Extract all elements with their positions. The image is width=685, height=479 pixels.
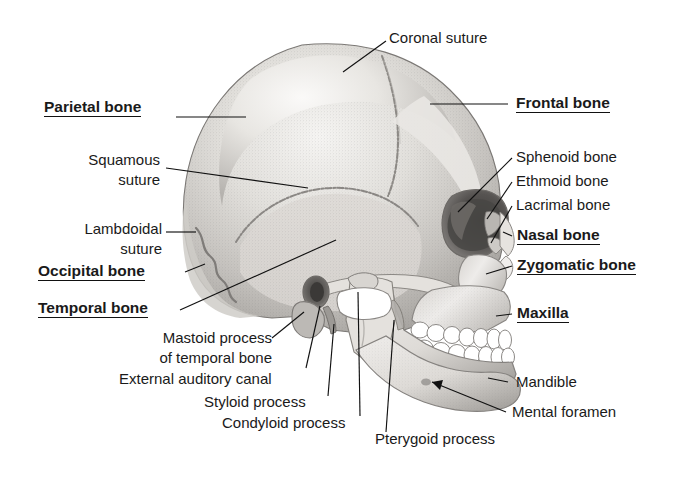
label-temporal-bone: Temporal bone [38,299,148,318]
label-mandible: Mandible [516,373,577,390]
label-squamous-suture: Squamous suture [0,150,160,190]
label-zygomatic-bone: Zygomatic bone [517,256,636,275]
label-mastoid-process-line1: Mastoid process [163,329,272,346]
label-external-auditory-canal: External auditory canal [119,370,272,387]
label-mastoid-process: Mastoid process of temporal bone [104,328,272,368]
label-styloid-process: Styloid process [204,393,306,410]
label-ethmoid-bone: Ethmoid bone [516,172,609,189]
label-squamous-suture-line1: Squamous [88,151,160,168]
label-occipital-bone: Occipital bone [38,262,145,281]
label-condyloid-process: Condyloid process [222,414,345,431]
mandibular-fossa-opening [337,288,391,320]
label-pterygoid-process: Pterygoid process [375,430,495,447]
skull-diagram: Coronal suture Parietal bone Frontal bon… [0,0,685,479]
label-sphenoid-bone: Sphenoid bone [516,148,617,165]
leader-styloid-process [328,324,334,396]
label-nasal-bone: Nasal bone [517,226,600,245]
label-mental-foramen: Mental foramen [512,403,616,420]
mental-foramen [421,379,431,386]
label-squamous-suture-line2: suture [0,170,160,190]
label-frontal-bone: Frontal bone [516,94,610,113]
label-coronal-suture: Coronal suture [389,29,487,46]
label-maxilla: Maxilla [517,304,569,323]
label-lambdoidal-suture: Lambdoidal suture [0,219,162,259]
label-lambdoidal-suture-line1: Lambdoidal [84,220,162,237]
label-parietal-bone: Parietal bone [44,98,141,117]
label-mastoid-process-line2: of temporal bone [104,348,272,368]
label-lacrimal-bone: Lacrimal bone [516,196,610,213]
label-lambdoidal-suture-line2: suture [0,239,162,259]
